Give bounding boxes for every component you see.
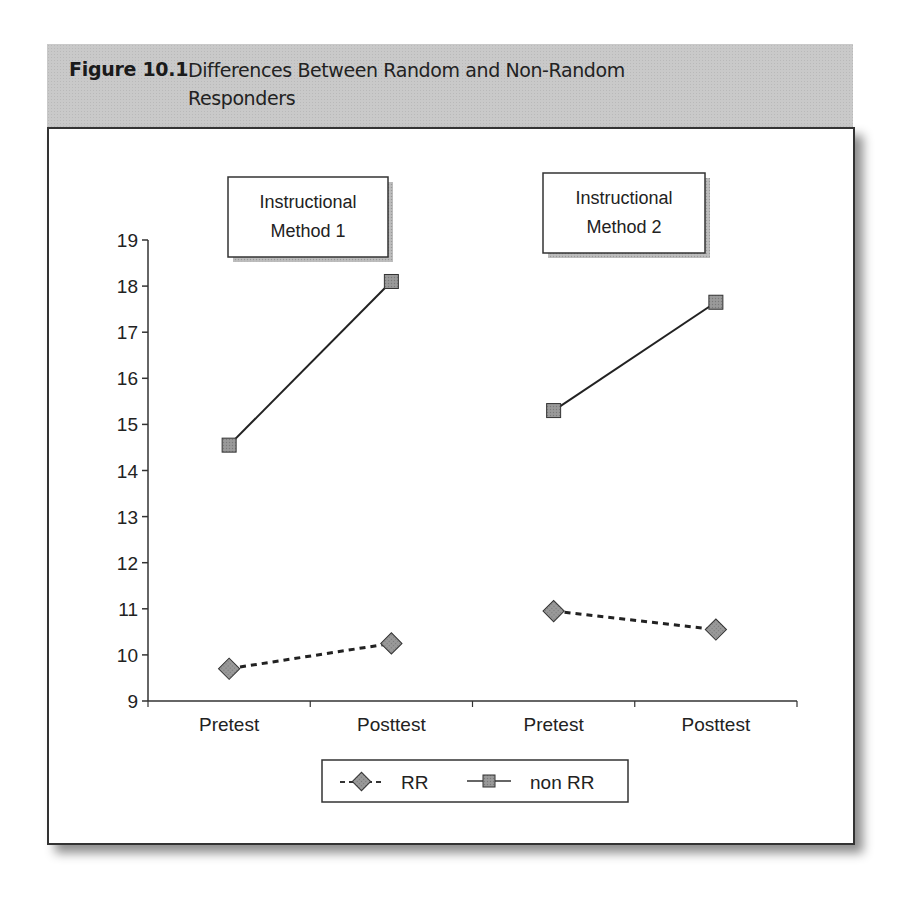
annotation-method-1-line-2: Method 1 [270,221,345,241]
series-rr [219,600,727,679]
x-axis: PretestPosttestPretestPosttest [148,701,797,735]
y-tick-label: 9 [127,691,138,712]
legend-label-non-rr: non RR [530,772,594,793]
square-marker-icon [384,274,398,288]
legend: RR non RR [322,760,628,802]
x-category-label: Pretest [524,714,585,735]
x-category-label: Posttest [357,714,426,735]
diamond-marker-icon [219,658,240,679]
x-category-label: Pretest [199,714,260,735]
y-axis: 910111213141516171819 [117,230,148,712]
diamond-marker-icon [381,633,402,654]
diamond-marker-icon [543,600,564,621]
y-tick-label: 17 [117,322,138,343]
y-tick-label: 15 [117,414,138,435]
y-tick-label: 13 [117,507,138,528]
diamond-marker-icon [705,619,726,640]
y-tick-label: 18 [117,276,138,297]
annotation-method-1-line-1: Instructional [259,192,356,212]
series-layer [219,274,727,679]
y-tick-label: 19 [117,230,138,251]
square-marker-icon [547,404,561,418]
square-marker-icon [709,295,723,309]
y-tick-label: 14 [117,461,139,482]
x-category-label: Posttest [682,714,751,735]
series-non-rr [222,274,723,452]
y-tick-label: 12 [117,553,138,574]
annotation-method-2-line-2: Method 2 [586,217,661,237]
annotation-method-1: Instructional Method 1 [228,177,393,262]
annotation-method-2-line-1: Instructional [575,188,672,208]
y-tick-label: 16 [117,368,138,389]
line-chart: Instructional Method 1 Instructional Met… [0,0,906,905]
square-marker-icon [222,438,236,452]
annotation-method-2: Instructional Method 2 [543,173,710,258]
square-marker-icon [483,775,495,787]
y-tick-label: 10 [117,645,138,666]
y-tick-label: 11 [118,599,138,620]
legend-label-rr: RR [401,772,428,793]
